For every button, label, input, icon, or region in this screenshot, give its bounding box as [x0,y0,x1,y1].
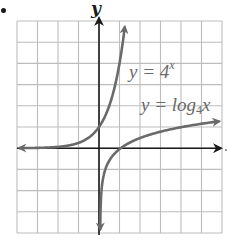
log-label-var: x [202,94,210,115]
log-curve-label: y = log4x [141,94,210,118]
exp-curve-label: y = 4x [129,58,175,83]
exp-label-text: y = 4 [129,61,169,82]
y-axis-label: y [91,0,101,18]
grid-lines [17,21,222,233]
exp-label-exponent: x [169,58,174,72]
x-axis-label-fragment [225,149,227,151]
log-label-text: y = log [141,94,196,115]
exp-curve [19,27,125,149]
function-graph [0,0,228,241]
